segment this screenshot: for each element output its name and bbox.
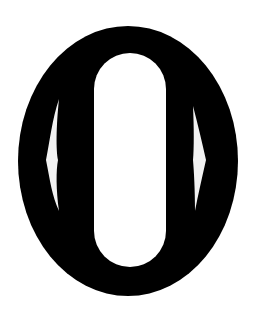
inner-counter: [94, 53, 166, 267]
zero-glyph-icon: [0, 0, 258, 319]
glyph-canvas: [0, 0, 258, 319]
